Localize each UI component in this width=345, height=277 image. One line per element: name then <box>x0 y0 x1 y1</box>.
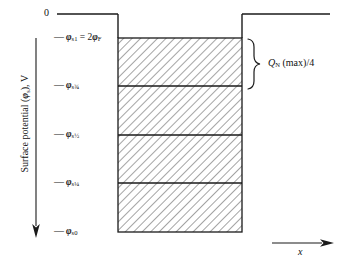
x-axis-label: x <box>298 246 302 257</box>
y-axis-label: Surface potential (φs), V <box>19 44 30 204</box>
y-axis-arrow <box>32 38 40 238</box>
charge-band-box <box>118 38 242 232</box>
x-axis-arrow <box>272 239 334 247</box>
zero-tick-label: 0 <box>44 7 49 18</box>
qn-brace <box>248 39 260 89</box>
qn-max-annotation: QN (max)/4 <box>268 57 314 68</box>
tick-label-phi-s-half: —φs½ <box>54 129 79 140</box>
tick-label-phi-s-three-quarter: —φs¾ <box>54 80 79 91</box>
tick-label-phi-s0: —φs0 <box>54 226 77 237</box>
tick-label-phi-s1: —φs1 = 2φF <box>54 32 102 43</box>
tick-label-phi-s-quarter: —φs¼ <box>54 177 79 188</box>
figure-canvas: 0 Surface potential (φs), V —φs1 = 2φF —… <box>0 0 345 277</box>
diagram-svg <box>0 0 345 277</box>
